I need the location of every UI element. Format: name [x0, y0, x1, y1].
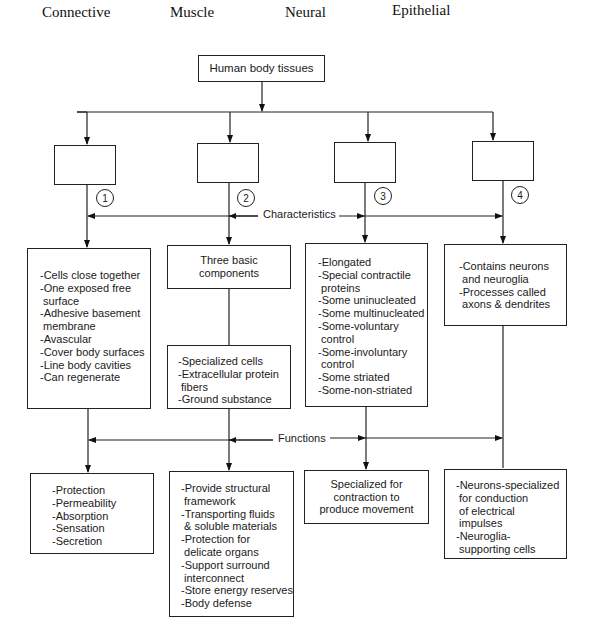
functions-box-1: -Protection -Permeability -Absorption -S… [30, 473, 154, 554]
functions-box-3: Specialized for contraction to produce m… [304, 470, 429, 524]
root-label: Human body tissues [209, 62, 313, 75]
three-basic-components-box: Three basic components [167, 245, 291, 289]
marker-4: 4 [511, 186, 529, 204]
functions-list-1: -Protection -Permeability -Absorption -S… [52, 484, 153, 548]
characteristics-box-4: -Contains neurons and neuroglia -Process… [444, 244, 567, 326]
blank-box-3 [334, 142, 396, 183]
characteristics-list-3: -Elongated -Special contractile proteins… [318, 256, 427, 397]
functions-label: Functions [275, 432, 329, 444]
functions-list-2: -Provide structural framework -Transport… [181, 482, 293, 610]
functions-box-4: -Neurons-specialized for conduction of e… [444, 469, 567, 559]
characteristics-label: Characteristics [260, 208, 339, 220]
components-list: -Specialized cells -Extracellular protei… [178, 355, 290, 406]
characteristics-list-4: -Contains neurons and neuroglia -Process… [459, 260, 566, 311]
marker-3: 3 [374, 187, 392, 205]
blank-box-2 [197, 143, 259, 183]
functions-box-2: -Provide structural framework -Transport… [169, 471, 294, 617]
components-list-box: -Specialized cells -Extracellular protei… [167, 345, 291, 409]
blank-box-4 [472, 141, 534, 181]
characteristics-box-1: -Cells close together -One exposed free … [27, 248, 151, 409]
blank-box-1 [54, 145, 116, 185]
characteristics-box-3: -Elongated -Special contractile proteins… [305, 243, 428, 407]
marker-2: 2 [237, 189, 255, 207]
functions-list-4: -Neurons-specialized for conduction of e… [456, 479, 566, 556]
marker-1: 1 [96, 189, 114, 207]
characteristics-list-1: -Cells close together -One exposed free … [40, 269, 150, 384]
root-box-human-body-tissues: Human body tissues [198, 55, 325, 82]
